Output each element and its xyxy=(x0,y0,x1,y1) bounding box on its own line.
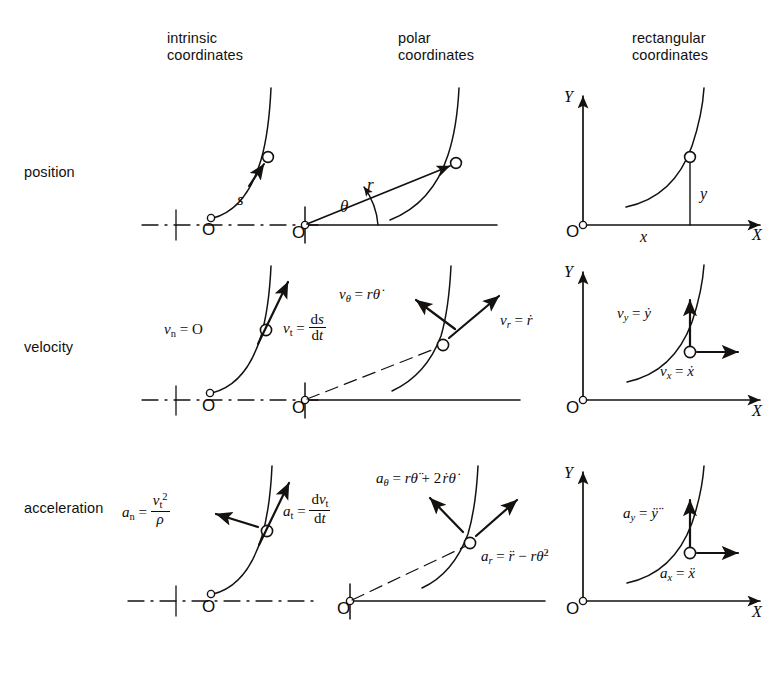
polar-position-path xyxy=(390,88,459,220)
y-axis-label-velocity: Y xyxy=(564,263,573,281)
origin-label-rectangular-acceleration: O xyxy=(566,599,579,619)
acceleration-tangential-formula: at = dvtdt xyxy=(283,492,330,526)
y-coordinate-label: y xyxy=(700,185,707,203)
origin-label-rectangular-position: O xyxy=(566,222,579,242)
polar-velocity-axes xyxy=(305,383,520,418)
y-axis-label-acceleration: Y xyxy=(564,464,573,482)
acceleration-theta-formula: aθ = rθ̈ + 2 ṙθ̇ xyxy=(376,471,456,489)
x-axis-label-position: X xyxy=(752,226,762,244)
origin-label-polar-velocity: O xyxy=(292,398,305,418)
origin-label-rectangular-velocity: O xyxy=(566,398,579,418)
rectangular-position-axes xyxy=(583,96,760,225)
figure-canvas: intrinsic coordinates polar coordinates … xyxy=(0,0,782,681)
origin-label-polar-position: O xyxy=(292,223,305,243)
acceleration-normal-formula: an = vt2ρ xyxy=(122,492,170,527)
x-coordinate-label: x xyxy=(640,228,647,246)
x-axis-label-acceleration: X xyxy=(752,603,762,621)
y-axis-label-position: Y xyxy=(564,88,573,106)
acceleration-x-formula: ax = ẍ xyxy=(660,566,695,584)
arc-length-label-position: s xyxy=(237,190,244,210)
origin-label-intrinsic-velocity: O xyxy=(202,396,215,416)
rectangular-position-path xyxy=(626,88,704,207)
acceleration-y-formula: ay = ÿ̈ xyxy=(623,506,658,524)
velocity-x-formula: vx = ẋ xyxy=(660,364,694,382)
acceleration-radial-formula: ar = r̈ − rθ̇2 xyxy=(481,548,549,567)
theta-label-position: θ xyxy=(340,197,348,217)
polar-acceleration-axes xyxy=(350,584,545,619)
origin-label-polar-acceleration: O xyxy=(337,599,350,619)
origin-label-intrinsic-acceleration: O xyxy=(202,597,215,617)
x-axis-label-velocity: X xyxy=(752,402,762,420)
velocity-radial-formula: vr = ṙ xyxy=(500,313,533,331)
origin-label-intrinsic-position: O xyxy=(202,220,215,240)
radius-label-position: r xyxy=(367,175,374,195)
velocity-normal-formula: vn = O xyxy=(164,322,203,340)
polar-velocity-path xyxy=(392,266,451,391)
velocity-theta-formula: vθ = rθ̇ xyxy=(339,287,380,305)
velocity-tangential-formula: vt = dsdt xyxy=(283,312,326,343)
velocity-y-formula: vy = ẏ xyxy=(617,306,651,324)
